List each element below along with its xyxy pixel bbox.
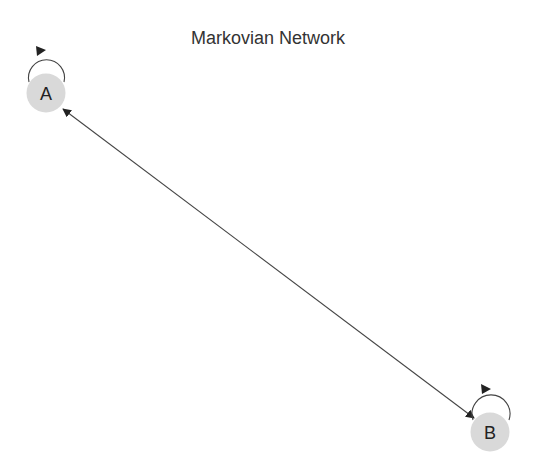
node-a[interactable]: A [27,74,66,113]
self-loop-a-arrowhead-icon [36,46,46,56]
edge-a-b [63,109,474,418]
node-b[interactable]: B [471,413,510,452]
network-graph: A B [0,0,543,473]
node-b-label: B [484,423,496,443]
node-a-label: A [40,84,52,104]
self-loop-b-arrowhead-icon [481,384,491,394]
